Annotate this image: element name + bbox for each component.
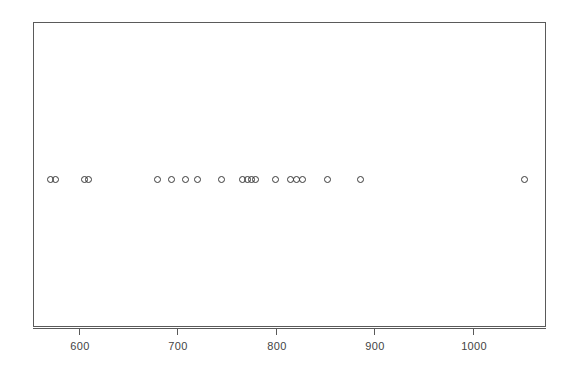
chart-canvas: 600 700 800 900 1000 <box>0 0 573 374</box>
x-axis-tick-700 <box>177 329 178 335</box>
x-axis-tick-800 <box>276 329 277 335</box>
x-axis-tick-600 <box>79 329 80 335</box>
x-axis-tick-900 <box>374 329 375 335</box>
x-axis-label-600: 600 <box>50 340 110 352</box>
x-axis-label-800: 800 <box>247 340 307 352</box>
x-axis-line <box>33 328 546 329</box>
x-axis-label-1000: 1000 <box>444 340 504 352</box>
x-axis-tick-1000 <box>473 329 474 335</box>
x-axis-label-700: 700 <box>148 340 208 352</box>
x-axis-label-900: 900 <box>345 340 405 352</box>
x-axis: 600 700 800 900 1000 <box>0 0 573 374</box>
